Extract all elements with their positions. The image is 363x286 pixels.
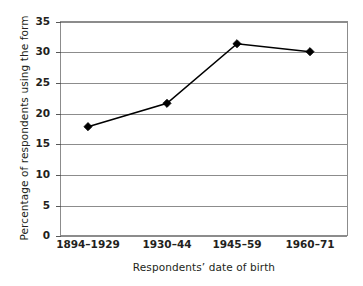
y-tick-label-15: 15 xyxy=(4,138,50,149)
y-axis-title: Percentage of respondents using the form xyxy=(16,8,32,248)
y-tick-label-30: 30 xyxy=(4,46,50,57)
y-tick-mark-35 xyxy=(56,22,61,23)
y-tick-mark-5 xyxy=(56,206,61,207)
gridline-0 xyxy=(61,236,347,237)
x-axis-title: Respondents’ date of birth xyxy=(60,261,348,273)
y-tick-mark-20 xyxy=(56,114,61,115)
gridline-10 xyxy=(61,175,347,176)
y-tick-label-20: 20 xyxy=(4,108,50,119)
plot-area xyxy=(60,21,348,236)
y-tick-mark-0 xyxy=(56,236,61,237)
y-tick-mark-25 xyxy=(56,83,61,84)
y-tick-mark-15 xyxy=(56,144,61,145)
line-chart-figure: Percentage of respondents using the form… xyxy=(0,0,363,286)
gridline-30 xyxy=(61,52,347,53)
y-tick-label-35: 35 xyxy=(4,16,50,27)
y-tick-mark-10 xyxy=(56,175,61,176)
x-tick-label-4: 1960–71 xyxy=(262,239,358,250)
y-tick-mark-30 xyxy=(56,52,61,53)
y-tick-label-5: 5 xyxy=(4,200,50,211)
gridline-35 xyxy=(61,22,347,23)
gridline-5 xyxy=(61,206,347,207)
gridline-20 xyxy=(61,114,347,115)
y-tick-label-10: 10 xyxy=(4,169,50,180)
gridline-25 xyxy=(61,83,347,84)
y-tick-label-25: 25 xyxy=(4,77,50,88)
gridline-15 xyxy=(61,144,347,145)
